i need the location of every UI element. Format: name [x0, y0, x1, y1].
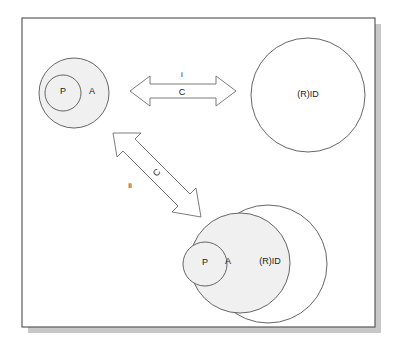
group-agent-separate: A P	[39, 58, 109, 128]
label-rid-top-right: (R)ID	[297, 89, 319, 99]
group-rid-separate: (R)ID	[251, 38, 365, 152]
label-p-bottom: P	[202, 257, 208, 267]
label-roman-ii: ii	[128, 181, 132, 190]
diagram-figure: A P (R)ID i C ii C P A (R)ID	[0, 0, 407, 355]
label-p-top-left: P	[60, 86, 66, 96]
label-a-top-left: A	[89, 86, 95, 96]
label-rid-bottom: (R)ID	[259, 256, 281, 266]
diagram-canvas: A P (R)ID i C ii C P A (R)ID	[0, 0, 407, 355]
label-relation-c-horizontal: C	[179, 87, 186, 97]
label-a-bottom: A	[225, 256, 231, 266]
label-roman-i: i	[181, 70, 183, 79]
